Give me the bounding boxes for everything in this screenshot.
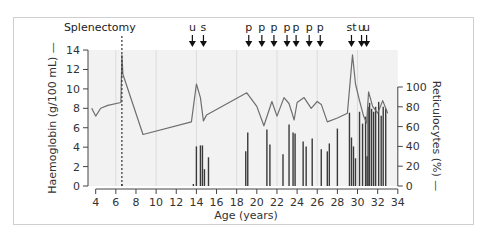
down-arrow-head-icon (189, 41, 196, 47)
x-tick-label: 30 (351, 196, 365, 209)
event-arrow-label: p (293, 21, 300, 34)
event-arrow-label: p (258, 21, 265, 34)
event-arrow-label: p (317, 21, 324, 34)
down-arrow-head-icon (293, 41, 300, 47)
y-right-tick-label: 80 (406, 101, 420, 114)
down-arrow-head-icon (200, 41, 207, 47)
down-arrow-head-icon (348, 41, 355, 47)
x-tick-label: 14 (189, 196, 203, 209)
y-right-tick-label: 20 (406, 160, 420, 173)
y-left-axis-title: Haemoglobin (g/100 mL) — (46, 42, 59, 194)
y-right-tick-label: 100 (406, 81, 427, 94)
splenectomy-label: Splenectomy (64, 21, 136, 34)
x-tick-label: 34 (391, 196, 405, 209)
y-left-tick-label: 0 (73, 180, 80, 193)
x-tick-label: 24 (290, 196, 304, 209)
x-tick-label: 10 (149, 196, 163, 209)
x-tick-label: 4 (92, 196, 99, 209)
y-left-tick-label: 6 (73, 122, 80, 135)
event-arrow-label: u (189, 21, 196, 34)
y-right-tick-label: 40 (406, 140, 420, 153)
y-right-axis-title: Reticulocytes (%) — (430, 81, 443, 192)
x-axis-title: Age (years) (214, 209, 278, 222)
x-tick-label: 22 (270, 196, 284, 209)
event-arrow-label: st (346, 21, 357, 34)
event-arrow-label: p (284, 21, 291, 34)
y-right-tick-label: 0 (406, 180, 413, 193)
x-tick-label: 16 (210, 196, 224, 209)
down-arrow-head-icon (284, 41, 291, 47)
y-left-tick-label: 10 (66, 83, 80, 96)
down-arrow-head-icon (306, 41, 313, 47)
event-arrow-label: u (363, 21, 370, 34)
chart: 0246810121446810121416182022242628303234… (0, 0, 491, 237)
x-tick-label: 6 (112, 196, 119, 209)
event-arrow-label: p (270, 21, 277, 34)
down-arrow-head-icon (258, 41, 265, 47)
y-left-tick-label: 12 (66, 63, 80, 76)
x-tick-label: 8 (132, 196, 139, 209)
event-arrow-label: p (245, 21, 252, 34)
x-tick-label: 12 (169, 196, 183, 209)
y-left-tick-label: 14 (66, 44, 80, 57)
y-right-tick-label: 60 (406, 121, 420, 134)
y-left-tick-label: 4 (73, 141, 80, 154)
x-tick-label: 32 (371, 196, 385, 209)
down-arrow-head-icon (317, 41, 324, 47)
event-arrow-label: p (306, 21, 313, 34)
y-left-tick-label: 8 (73, 102, 80, 115)
x-tick-label: 20 (250, 196, 264, 209)
x-tick-label: 26 (310, 196, 324, 209)
down-arrow-head-icon (245, 41, 252, 47)
y-left-tick-label: 2 (73, 161, 80, 174)
down-arrow-head-icon (270, 41, 277, 47)
x-tick-label: 18 (230, 196, 244, 209)
event-arrow-label: s (201, 21, 207, 34)
x-tick-label: 28 (330, 196, 344, 209)
down-arrow-head-icon (363, 41, 370, 47)
